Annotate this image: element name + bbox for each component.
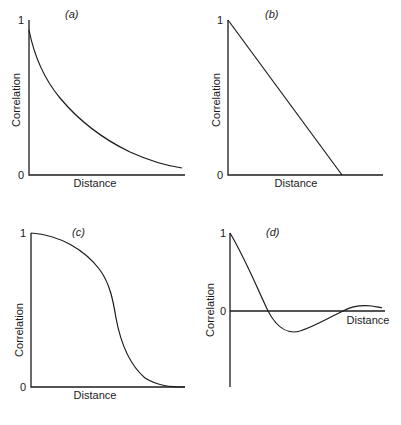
panel-c-label: (c) — [72, 226, 85, 238]
panel-c-xlabel: Distance — [74, 389, 117, 401]
panel-d-ytick-1: 1 — [220, 227, 226, 239]
panel-c: 1 0 (c) Distance Correlation — [13, 226, 185, 401]
panel-a-curve — [29, 30, 182, 168]
panel-b-ytick-1: 1 — [217, 14, 223, 26]
panel-c-ytick-1: 1 — [20, 227, 26, 239]
panel-b-curve — [228, 20, 342, 175]
panel-b-axes — [228, 20, 383, 175]
panel-b: 1 0 (b) Distance Correlation — [210, 8, 383, 189]
panel-a-ytick-1: 1 — [18, 14, 24, 26]
panel-d-ytick-0: 0 — [220, 305, 226, 317]
panel-a-axes — [29, 20, 185, 175]
panel-d-xlabel: Distance — [347, 314, 390, 326]
panel-a-ytick-0: 0 — [18, 169, 24, 181]
panel-a-ylabel: Correlation — [10, 73, 22, 127]
panel-a: 1 0 (a) Distance Correlation — [10, 8, 185, 189]
panel-c-axes — [31, 233, 185, 387]
panel-b-label: (b) — [265, 8, 279, 20]
panel-a-xlabel: Distance — [74, 177, 117, 189]
panel-b-xlabel: Distance — [275, 177, 318, 189]
panel-d: 1 0 (d) Distance Correlation — [204, 226, 389, 387]
panel-d-label: (d) — [266, 226, 280, 238]
panel-a-label: (a) — [65, 8, 79, 20]
panel-c-ylabel: Correlation — [13, 303, 25, 357]
panel-b-ytick-0: 0 — [217, 169, 223, 181]
figure-canvas: 1 0 (a) Distance Correlation 1 0 (b) Dis… — [0, 0, 401, 425]
panel-c-ytick-0: 0 — [20, 381, 26, 393]
panel-c-curve — [31, 233, 185, 387]
panel-b-ylabel: Correlation — [210, 73, 222, 127]
panel-d-ylabel: Correlation — [204, 283, 216, 337]
